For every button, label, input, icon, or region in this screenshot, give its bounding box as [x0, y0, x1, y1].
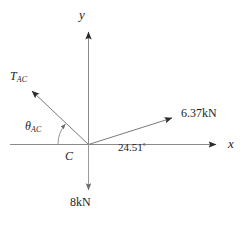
resultant-force-label: 6.37kN: [181, 107, 217, 119]
origin-point-label: C: [65, 150, 73, 162]
tension-ac-symbol: T: [10, 69, 17, 83]
y-axis-label: y: [79, 8, 85, 21]
theta-ac-subscript: AC: [31, 125, 42, 134]
resultant-angle-value: 24.51: [118, 141, 143, 153]
theta-ac-label: θAC: [25, 120, 42, 134]
force-diagram: y x TAC θAC 6.37kN 24.51° C 8kN: [0, 0, 247, 225]
tension-ac-label: TAC: [10, 70, 27, 84]
degree-symbol: °: [143, 142, 146, 150]
theta-ac-angle-arc: [58, 124, 66, 145]
resultant-angle-label: 24.51°: [118, 142, 146, 153]
applied-load-label: 8kN: [70, 196, 91, 208]
x-axis-label: x: [228, 137, 234, 150]
tension-ac-subscript: AC: [17, 75, 28, 84]
tension-ac-vector: [32, 91, 89, 145]
